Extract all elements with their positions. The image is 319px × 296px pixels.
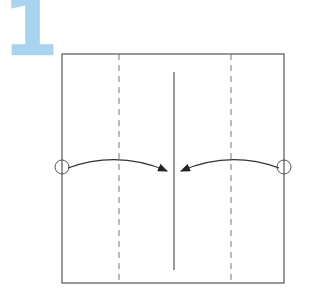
fold-diagram: [0, 0, 319, 296]
paper-square: [62, 54, 284, 283]
